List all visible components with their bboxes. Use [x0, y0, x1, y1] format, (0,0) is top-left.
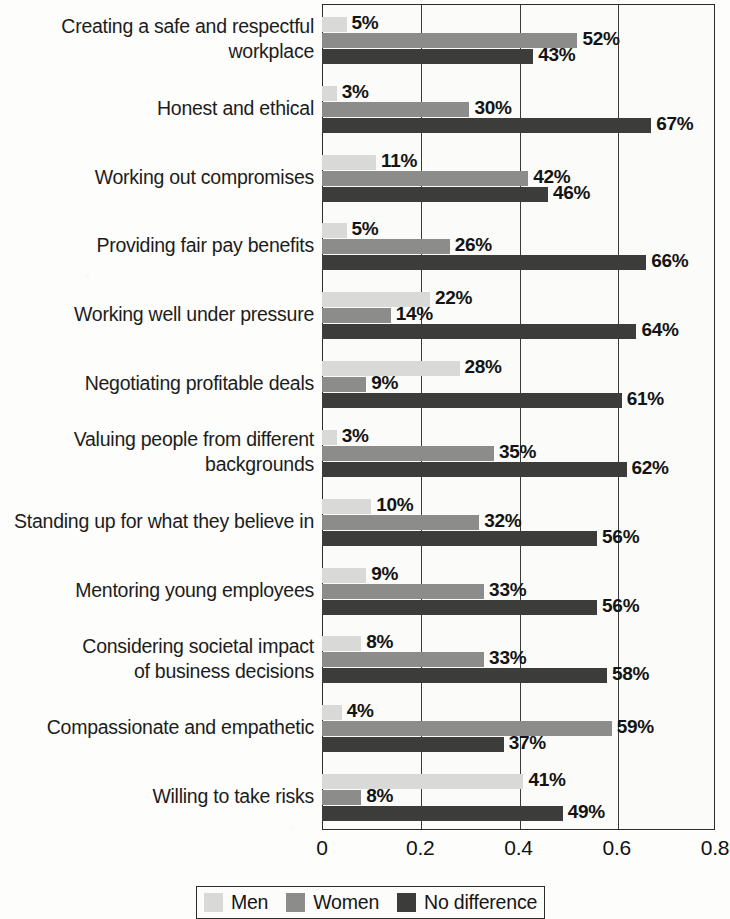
bar-value-label: 67%: [656, 116, 693, 131]
bar-value-label: 43%: [538, 47, 575, 62]
category-label-line: Mentoring young employees: [0, 578, 314, 603]
legend-swatch-men-icon: [204, 893, 223, 912]
bar-nodiff: [322, 118, 651, 133]
bar-women: [322, 584, 484, 599]
bar-men: [322, 17, 347, 32]
bar-men: [322, 568, 366, 583]
legend-label-men: Men: [231, 891, 268, 914]
bar-value-label: 56%: [602, 598, 639, 613]
bar-women: [322, 171, 528, 186]
category-label-line: Providing fair pay benefits: [0, 233, 314, 258]
bar-nodiff: [322, 49, 533, 64]
category-label-line: backgrounds: [0, 452, 314, 477]
bar-value-label: 22%: [435, 290, 472, 305]
bar-value-label: 3%: [342, 428, 369, 443]
bar-group: 41%8%49%: [322, 774, 715, 821]
bar-women: [322, 515, 479, 530]
legend-item-women: Women: [286, 891, 379, 914]
bar-group: 22%14%64%: [322, 292, 715, 339]
bar-group: 3%30%67%: [322, 86, 715, 133]
bar-value-label: 8%: [366, 788, 393, 803]
bar-value-label: 64%: [641, 322, 678, 337]
bar-value-label: 33%: [489, 650, 526, 665]
legend-label-women: Women: [313, 891, 379, 914]
bar-women: [322, 308, 391, 323]
bar-value-label: 5%: [352, 221, 379, 236]
bar-value-label: 4%: [347, 703, 374, 718]
bar-value-label: 66%: [651, 253, 688, 268]
category-label-line: workplace: [0, 39, 314, 64]
bar-value-label: 32%: [484, 513, 521, 528]
bar-value-label: 30%: [474, 100, 511, 115]
bar-group: 5%26%66%: [322, 223, 715, 270]
bar-value-label: 9%: [371, 375, 398, 390]
bar-value-label: 3%: [342, 84, 369, 99]
bar-value-label: 35%: [499, 444, 536, 459]
bar-group: 10%32%56%: [322, 499, 715, 546]
bar-value-label: 8%: [366, 634, 393, 649]
x-axis-tick-0: 0: [316, 836, 327, 860]
bar-men: [322, 499, 371, 514]
category-label-line: Negotiating profitable deals: [0, 371, 314, 396]
bar-men: [322, 636, 361, 651]
bar-group: 9%33%56%: [322, 568, 715, 615]
category-label-line: Valuing people from different: [0, 427, 314, 452]
category-label-line: Compassionate and empathetic: [0, 715, 314, 740]
bar-value-label: 33%: [489, 582, 526, 597]
bar-group: 4%59%37%: [322, 705, 715, 752]
category-label: Providing fair pay benefits: [0, 233, 314, 258]
category-label: Honest and ethical: [0, 96, 314, 121]
x-axis-tick-0.4: 0.4: [504, 836, 533, 860]
bar-group: 8%33%58%: [322, 636, 715, 683]
bar-women: [322, 102, 469, 117]
bar-value-label: 9%: [371, 566, 398, 581]
category-label: Mentoring young employees: [0, 578, 314, 603]
bar-value-label: 58%: [612, 666, 649, 681]
bar-value-label: 49%: [568, 804, 605, 819]
category-label: Valuing people from differentbackgrounds: [0, 427, 314, 477]
bar-women: [322, 790, 361, 805]
bar-value-label: 46%: [553, 185, 590, 200]
bar-group: 5%52%43%: [322, 17, 715, 64]
x-axis-tick-0.2: 0.2: [406, 836, 435, 860]
category-label-line: Working well under pressure: [0, 302, 314, 327]
bar-nodiff: [322, 393, 622, 408]
x-axis-tick-0.8: 0.8: [701, 836, 730, 860]
category-label: Working out compromises: [0, 165, 314, 190]
category-label-line: Working out compromises: [0, 165, 314, 190]
bar-value-label: 37%: [509, 735, 546, 750]
bar-men: [322, 223, 347, 238]
category-label-line: Standing up for what they believe in: [0, 509, 314, 534]
bar-nodiff: [322, 462, 627, 477]
bar-women: [322, 377, 366, 392]
bar-group: 3%35%62%: [322, 430, 715, 477]
bar-value-label: 11%: [381, 153, 417, 168]
bar-nodiff: [322, 668, 607, 683]
legend-item-men: Men: [204, 891, 268, 914]
legend-swatch-women-icon: [286, 893, 305, 912]
bar-value-label: 26%: [455, 237, 492, 252]
category-label-line: of business decisions: [0, 659, 314, 684]
bar-men: [322, 86, 337, 101]
category-label: Working well under pressure: [0, 302, 314, 327]
bar-women: [322, 239, 450, 254]
bar-women: [322, 446, 494, 461]
bar-men: [322, 155, 376, 170]
bar-nodiff: [322, 531, 597, 546]
category-label: Creating a safe and respectfulworkplace: [0, 14, 314, 64]
bar-value-label: 28%: [465, 359, 502, 374]
legend-label-no-difference: No difference: [424, 891, 537, 914]
category-label: Negotiating profitable deals: [0, 371, 314, 396]
legend-swatch-no-difference-icon: [397, 893, 416, 912]
bar-nodiff: [322, 187, 548, 202]
category-label-line: Considering societal impact: [0, 634, 314, 659]
category-label-line: Creating a safe and respectful: [0, 14, 314, 39]
bar-value-label: 14%: [396, 306, 433, 321]
bar-nodiff: [322, 737, 504, 752]
bar-value-label: 61%: [627, 391, 664, 406]
legend-item-no-difference: No difference: [397, 891, 537, 914]
bar-value-label: 59%: [617, 719, 654, 734]
category-label-line: Honest and ethical: [0, 96, 314, 121]
category-label: Compassionate and empathetic: [0, 715, 314, 740]
bar-women: [322, 721, 612, 736]
